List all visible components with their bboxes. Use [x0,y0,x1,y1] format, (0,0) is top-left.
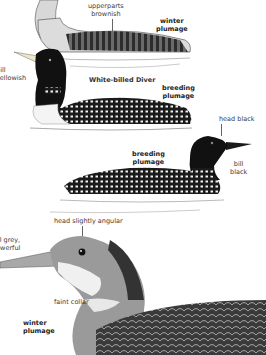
species-name-white-billed-diver: White-billed Diver [89,76,155,84]
label-upperparts: upperparts brownish [88,2,124,18]
label-faint-collar: faint collar [54,298,89,306]
label-winter-plumage-top: winter plumage [156,17,188,33]
label-breeding-plumage-white-billed: breeding plumage [162,84,195,100]
illustrations-canvas [0,0,266,355]
label-bill-black: bill black [230,160,247,176]
great-northern-diver-winter-closeup [0,236,266,355]
leader-head-angular [82,226,83,236]
great-northern-diver-breeding-illustration [50,136,252,213]
label-head-slightly-angular: head slightly angular [54,217,123,225]
label-bill-grey-powerful: bill grey, powerful [0,236,20,252]
label-winter-plumage-closeup: winter plumage [23,319,55,335]
leader-head-black [221,124,222,136]
label-breeding-plumage-great-northern: breeding plumage [132,150,165,166]
label-bill-yellowish: bill yellowish [0,66,26,82]
leader-upperparts [112,19,113,33]
label-head-black: head black [219,115,255,123]
